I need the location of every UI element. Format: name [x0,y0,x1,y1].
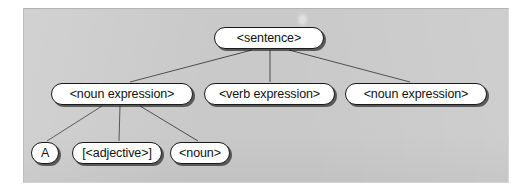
node-noun-expression-1-label: <noun expression> [70,87,175,100]
diagram-panel: <sentence> <noun expression> <verb expre… [23,8,509,183]
node-noun-expression-1[interactable]: <noun expression> [51,83,193,105]
node-terminal-a[interactable]: A [31,142,59,164]
edge-noun-expression-1-to-noun [140,106,198,141]
node-noun[interactable]: <noun> [170,142,230,164]
node-verb-expression[interactable]: <verb expression> [204,83,335,105]
node-terminal-a-label: A [41,146,49,159]
edge-sentence-to-noun-expression-2 [289,50,410,82]
node-noun-expression-2-label: <noun expression> [364,87,469,100]
node-sentence-label: <sentence> [237,31,301,44]
node-adjective-label: [<adjective>] [82,146,152,159]
node-verb-expression-label: <verb expression> [219,87,320,100]
edge-sentence-to-noun-expression-1 [130,50,252,82]
node-adjective[interactable]: [<adjective>] [72,142,162,164]
node-noun-expression-2[interactable]: <noun expression> [345,83,487,105]
node-sentence[interactable]: <sentence> [214,27,324,49]
edge-noun-expression-1-to-a [47,106,102,141]
edge-noun-expression-1-to-adjective [119,106,120,141]
node-noun-label: <noun> [179,146,221,159]
figure-parse-tree: <sentence> <noun expression> <verb expre… [0,0,530,192]
